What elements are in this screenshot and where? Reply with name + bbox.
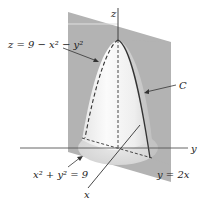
plane-equation-label: y = 2x [156, 169, 190, 180]
x-axis-label: x [84, 189, 90, 200]
surface-equation-label: z = 9 − x² − y² [7, 39, 83, 50]
curve-c-label: C [179, 80, 187, 91]
cylinder-equation-label: x² + y² = 9 [33, 169, 89, 180]
cylinder-arrow-head [77, 156, 83, 161]
paraboloid-plane-intersection-diagram: z y x z = 9 − x² − y² C x² + y² = 9 y = … [0, 0, 207, 202]
z-axis-label: z [110, 8, 117, 19]
y-axis-label: y [190, 143, 197, 154]
